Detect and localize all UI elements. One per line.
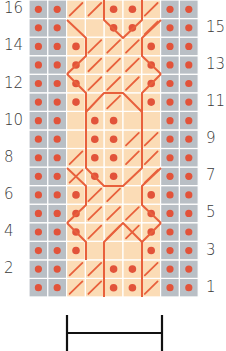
purl-dot-icon	[185, 136, 192, 143]
row-number-label: 8	[4, 150, 26, 165]
purl-dot-icon	[166, 98, 173, 105]
purl-dot-icon	[185, 173, 192, 180]
purl-dot-icon	[54, 98, 61, 105]
purl-dot-icon	[54, 61, 61, 68]
purl-dot-icon	[54, 117, 61, 124]
cable-panel-cell	[123, 186, 142, 205]
purl-dot-icon	[185, 191, 192, 198]
purl-dot-icon	[72, 191, 80, 199]
purl-dot-icon	[54, 228, 61, 235]
purl-dot-icon	[166, 80, 173, 87]
purl-dot-icon	[185, 284, 192, 291]
purl-dot-icon	[54, 247, 61, 254]
purl-dot-icon	[166, 247, 173, 254]
purl-dot-icon	[185, 266, 192, 273]
purl-dot-icon	[72, 43, 80, 51]
purl-dot-icon	[185, 228, 192, 235]
purl-dot-icon	[35, 191, 42, 198]
cable-panel-cell	[85, 19, 104, 38]
purl-dot-icon	[110, 117, 118, 125]
purl-dot-icon	[54, 266, 61, 273]
chart-grid	[29, 0, 198, 297]
purl-dot-icon	[54, 6, 61, 13]
purl-dot-icon	[185, 61, 192, 68]
purl-dot-icon	[185, 43, 192, 50]
row-number-label: 13	[206, 57, 226, 72]
purl-dot-icon	[166, 6, 173, 13]
purl-dot-icon	[54, 284, 61, 291]
purl-dot-icon	[166, 228, 173, 235]
row-number-label: 2	[4, 261, 26, 276]
purl-dot-icon	[35, 173, 42, 180]
purl-dot-icon	[166, 136, 173, 143]
cable-panel-cell	[142, 111, 161, 130]
purl-dot-icon	[185, 117, 192, 124]
purl-dot-icon	[110, 135, 118, 143]
purl-dot-icon	[185, 80, 192, 87]
cable-panel-cell	[67, 111, 86, 130]
row-number-label: 1	[206, 280, 226, 295]
row-number-label: 9	[206, 131, 226, 146]
purl-dot-icon	[166, 154, 173, 161]
cable-panel-cell	[123, 241, 142, 260]
purl-dot-icon	[54, 136, 61, 143]
cable-panel-cell	[123, 111, 142, 130]
row-number-label: 5	[206, 205, 226, 220]
purl-dot-icon	[185, 98, 192, 105]
purl-dot-icon	[35, 228, 42, 235]
purl-dot-icon	[35, 98, 42, 105]
purl-dot-icon	[166, 191, 173, 198]
purl-dot-icon	[129, 265, 137, 273]
repeat-bracket	[67, 315, 162, 351]
purl-dot-icon	[185, 24, 192, 31]
row-number-label: 14	[4, 38, 26, 53]
purl-dot-icon	[54, 43, 61, 50]
purl-dot-icon	[166, 173, 173, 180]
row-number-label: 3	[206, 243, 226, 258]
purl-dot-icon	[147, 247, 155, 255]
purl-dot-icon	[35, 24, 42, 31]
purl-dot-icon	[54, 191, 61, 198]
cable-panel-cell	[67, 130, 86, 149]
row-number-label: 6	[4, 187, 26, 202]
purl-dot-icon	[54, 154, 61, 161]
purl-dot-icon	[54, 80, 61, 87]
purl-dot-icon	[35, 43, 42, 50]
purl-dot-icon	[72, 98, 80, 106]
purl-dot-icon	[35, 154, 42, 161]
purl-dot-icon	[35, 136, 42, 143]
purl-dot-icon	[35, 61, 42, 68]
row-number-label: 4	[4, 224, 26, 239]
purl-dot-icon	[91, 117, 99, 125]
purl-dot-icon	[110, 284, 118, 292]
purl-dot-icon	[185, 247, 192, 254]
purl-dot-icon	[91, 135, 99, 143]
purl-dot-icon	[166, 266, 173, 273]
purl-dot-icon	[35, 117, 42, 124]
row-number-label: 12	[4, 76, 26, 91]
purl-dot-icon	[35, 80, 42, 87]
purl-dot-icon	[35, 266, 42, 273]
purl-dot-icon	[147, 98, 155, 106]
purl-dot-icon	[54, 24, 61, 31]
purl-dot-icon	[110, 173, 118, 181]
cable-panel-cell	[104, 241, 123, 260]
purl-dot-icon	[35, 6, 42, 13]
row-number-label: 10	[4, 113, 26, 128]
purl-dot-icon	[166, 117, 173, 124]
purl-dot-icon	[110, 154, 118, 162]
row-number-label: 11	[206, 94, 226, 109]
row-number-label: 16	[4, 1, 26, 16]
row-number-label: 7	[206, 168, 226, 183]
purl-dot-icon	[185, 154, 192, 161]
purl-dot-icon	[166, 284, 173, 291]
purl-dot-icon	[35, 210, 42, 217]
purl-dot-icon	[129, 284, 137, 292]
cable-panel-cell	[85, 241, 104, 260]
purl-dot-icon	[166, 43, 173, 50]
row-number-label: 15	[206, 20, 226, 35]
purl-dot-icon	[166, 61, 173, 68]
purl-dot-icon	[91, 154, 99, 162]
purl-dot-icon	[54, 173, 61, 180]
purl-dot-icon	[54, 210, 61, 217]
